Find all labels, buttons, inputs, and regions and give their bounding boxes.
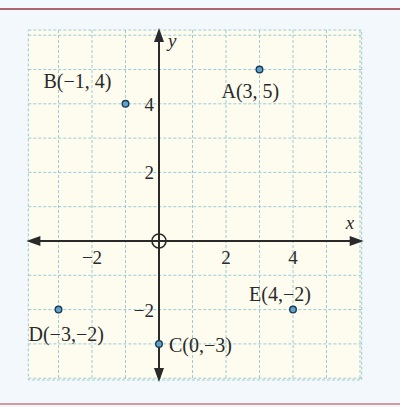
point-label-E: E(4,−2): [249, 283, 311, 306]
x-axis-label: x: [345, 212, 355, 233]
y-tick-label: 4: [145, 94, 155, 115]
y-tick-label: 2: [145, 162, 155, 183]
point-label-D: D(−3,−2): [29, 323, 104, 346]
x-tick-label: −2: [82, 247, 102, 268]
point-D: [55, 306, 62, 313]
y-tick-label: −2: [134, 300, 154, 321]
x-tick-label: 2: [221, 247, 231, 268]
point-B: [122, 101, 129, 108]
point-A: [256, 66, 263, 73]
y-axis-label: y: [166, 30, 177, 51]
coordinate-plane: xy−224−224A(3, 5)B(−1, 4)C(0,−3)D(−3,−2)…: [0, 0, 400, 407]
point-C: [156, 341, 163, 348]
point-E: [290, 306, 297, 313]
point-label-C: C(0,−3): [169, 334, 232, 357]
point-label-B: B(−1, 4): [44, 70, 112, 93]
x-tick-label: 4: [288, 247, 298, 268]
point-label-A: A(3, 5): [222, 80, 280, 103]
